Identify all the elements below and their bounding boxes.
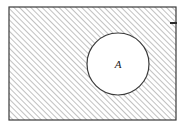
set-diagram-figure: A bbox=[0, 0, 187, 131]
diagram-canvas: A bbox=[0, 0, 187, 131]
circle-label-A: A bbox=[114, 58, 122, 70]
